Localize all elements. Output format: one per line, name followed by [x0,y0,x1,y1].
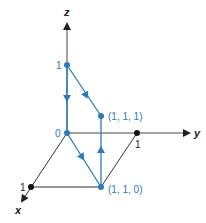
z-axis-label: z [63,6,70,18]
origin-label: 0 [55,128,61,139]
arrow-down-right-icon [77,152,87,162]
arrow-up-icon [97,146,105,153]
base-edge-y1 [101,133,137,187]
diagram-canvas: z y x 1 0 1 1 (1, 1, 1) (1, 1, 0) [0,0,206,223]
path-loop [67,65,101,187]
point-111 [98,113,104,119]
arrow-up-left-icon [81,88,92,98]
y-axis-label: y [193,127,201,139]
x-axis [22,133,67,201]
x-axis-label: x [14,204,22,216]
point-origin [64,130,70,136]
edge-111-to-001 [67,65,101,116]
point-111-label: (1, 1, 1) [108,111,142,122]
point-x1 [28,184,34,190]
point-001 [64,62,70,68]
z-one-label: 1 [56,60,62,71]
point-110 [98,184,104,190]
coordinate-diagram: z y x 1 0 1 1 (1, 1, 1) (1, 1, 0) [0,0,206,223]
point-y1 [134,130,140,136]
arrow-down-icon [63,95,71,102]
x-one-label: 1 [20,182,26,193]
point-110-label: (1, 1, 0) [108,184,142,195]
y-one-label: 1 [135,139,141,150]
